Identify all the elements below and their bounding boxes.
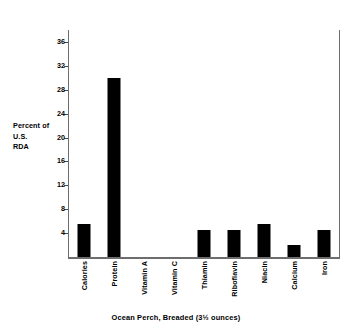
bar-slot <box>69 30 99 257</box>
bar <box>228 230 241 257</box>
bar-slot <box>159 30 189 257</box>
y-axis-tick-label: 32 <box>57 61 65 70</box>
y-axis-tick-label: 28 <box>57 85 65 94</box>
y-axis-tick-label: 36 <box>57 37 65 46</box>
x-axis-tick-label: Protein <box>110 261 119 286</box>
bars-layer <box>69 30 339 257</box>
bar <box>258 224 271 257</box>
y-axis-tick-label: 8 <box>61 204 65 213</box>
y-axis-tick-label: 12 <box>57 180 65 189</box>
x-axis-tick-label: Riboflavin <box>230 261 239 297</box>
right-axis-spine <box>339 30 340 258</box>
x-tick-slot: Calcium <box>279 259 309 307</box>
bar-slot <box>309 30 339 257</box>
x-tick-slot: Vitamin A <box>129 259 159 307</box>
bar <box>78 224 91 257</box>
x-axis-tick-labels: CaloriesProteinVitamin AVitamin CThiamin… <box>69 259 339 307</box>
x-axis-title: Ocean Perch, Breaded (3½ ounces) <box>0 313 352 322</box>
x-axis-tick-label: Thiamin <box>200 261 209 289</box>
bar-slot <box>189 30 219 257</box>
y-axis-title-line-3: RDA <box>13 142 65 153</box>
x-tick-slot: Vitamin C <box>159 259 189 307</box>
bar-slot <box>99 30 129 257</box>
bar-slot <box>279 30 309 257</box>
bar-chart-figure: Percent of U.S. RDA 4812162024283236 Cal… <box>0 0 352 334</box>
plot-area: 4812162024283236 <box>68 30 340 258</box>
bar <box>318 230 331 257</box>
bar <box>288 245 301 257</box>
bar <box>108 78 121 257</box>
x-axis-tick-label: Calcium <box>290 261 299 290</box>
x-tick-slot: Riboflavin <box>219 259 249 307</box>
x-tick-slot: Calories <box>69 259 99 307</box>
x-tick-slot: Iron <box>309 259 339 307</box>
bar-slot <box>129 30 159 257</box>
y-axis-tick-label: 20 <box>57 133 65 142</box>
bar-slot <box>219 30 249 257</box>
x-axis-tick-label: Iron <box>320 261 329 275</box>
y-axis-title-line-1: Percent of <box>13 121 65 132</box>
y-axis-tick-label: 24 <box>57 109 65 118</box>
bar-slot <box>249 30 279 257</box>
y-axis-tick-label: 4 <box>61 228 65 237</box>
x-axis-tick-label: Niacin <box>260 261 269 283</box>
x-axis-tick-label: Vitamin C <box>170 261 179 295</box>
x-tick-slot: Niacin <box>249 259 279 307</box>
y-axis-tick-label: 16 <box>57 156 65 165</box>
x-tick-slot: Protein <box>99 259 129 307</box>
x-axis-tick-label: Vitamin A <box>140 261 149 295</box>
x-tick-slot: Thiamin <box>189 259 219 307</box>
x-axis-tick-label: Calories <box>80 261 89 290</box>
bar <box>198 230 211 257</box>
